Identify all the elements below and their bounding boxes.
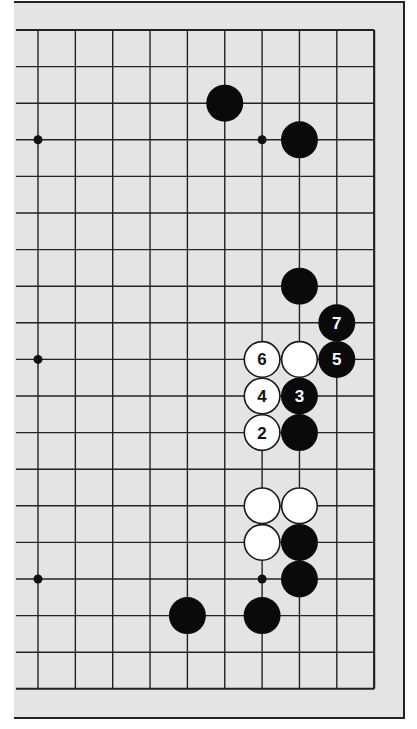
black-stone-icon	[244, 597, 281, 634]
white-stone: 2	[244, 415, 280, 451]
hoshi-point-icon	[34, 355, 43, 364]
black-stone	[281, 268, 318, 305]
hoshi-point-icon	[34, 575, 43, 584]
white-stone: 6	[244, 342, 280, 378]
black-stone-icon	[169, 597, 206, 634]
black-stone-icon	[206, 85, 243, 122]
black-stone	[169, 597, 206, 634]
black-stone	[244, 597, 281, 634]
black-stone	[206, 85, 243, 122]
white-stone-icon	[244, 525, 280, 561]
black-stone-icon	[281, 121, 318, 158]
white-stone-icon	[244, 488, 280, 524]
go-board: 765432	[0, 0, 417, 729]
black-stone	[281, 414, 318, 451]
black-stone-icon	[281, 524, 318, 561]
black-stone: 7	[318, 304, 355, 341]
move-number: 5	[332, 350, 341, 369]
move-number: 2	[257, 424, 266, 443]
move-number: 7	[332, 314, 341, 333]
hoshi-point-icon	[258, 575, 267, 584]
white-stone-icon	[282, 342, 318, 378]
black-stone	[281, 524, 318, 561]
white-stone-icon	[282, 488, 318, 524]
black-stone	[281, 561, 318, 598]
black-stone-icon	[281, 414, 318, 451]
white-stone	[244, 525, 280, 561]
move-number: 6	[257, 350, 266, 369]
hoshi-point-icon	[34, 135, 43, 144]
black-stone-icon	[281, 561, 318, 598]
black-stone: 5	[318, 341, 355, 378]
black-stone	[281, 121, 318, 158]
white-stone: 4	[244, 378, 280, 414]
white-stone	[282, 488, 318, 524]
black-stone: 3	[281, 378, 318, 415]
white-stone	[282, 342, 318, 378]
move-number: 3	[295, 387, 304, 406]
white-stone	[244, 488, 280, 524]
hoshi-point-icon	[258, 135, 267, 144]
move-number: 4	[257, 387, 267, 406]
black-stone-icon	[281, 268, 318, 305]
